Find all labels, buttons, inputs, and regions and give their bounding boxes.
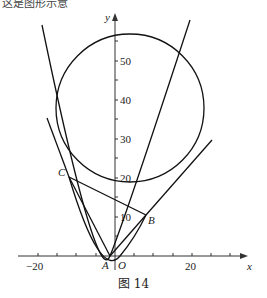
diagram-figure: −20 20 10 20 30 40 50 x y O C B A [0,0,267,298]
point-label-B: B [148,214,155,226]
y-tick-label-50: 50 [120,55,132,67]
axes: −20 20 10 20 30 40 50 x y O [18,11,252,272]
parabola-outer [42,20,190,260]
y-axis-label: y [104,11,110,23]
x-axis-label: x [246,260,252,272]
line-CA [69,177,110,256]
y-tick-label-40: 40 [120,94,132,106]
figure-caption: 图 14 [0,274,267,291]
parabola-inner [69,177,146,261]
x-tick-label-20: 20 [185,260,197,272]
point-label-A: A [101,259,109,271]
point-label-C: C [58,166,66,178]
y-tick-label-30: 30 [120,133,132,145]
y-axis-arrow-icon [112,13,118,21]
origin-label: O [118,259,126,271]
x-tick-label-neg20: −20 [26,260,44,272]
x-axis-arrow-icon [240,253,248,259]
